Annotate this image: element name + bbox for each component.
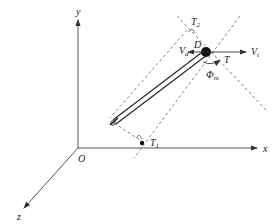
origin-label: O: [78, 153, 85, 164]
D-label: D: [193, 39, 202, 50]
z-axis: [24, 148, 78, 208]
axes: [24, 20, 257, 208]
dashed-parallel-left: [110, 30, 187, 118]
T2-label: T2: [191, 16, 201, 29]
y-axis-label: y: [75, 6, 81, 17]
right-angle-mark-T2: [188, 29, 195, 33]
z-axis-label: z: [16, 211, 21, 222]
T-label: T: [224, 54, 231, 65]
phi-m-label: Φm: [206, 69, 219, 82]
x-axis-label: x: [262, 143, 268, 154]
V-d-label: Vd: [179, 45, 189, 58]
dashed-construction-lines: [110, 16, 268, 158]
V-t-label: Vt: [251, 46, 260, 59]
T1-point: [140, 141, 144, 145]
tether-diagram: y x z O D Vd Vt T Φm T2 T1: [0, 0, 280, 224]
